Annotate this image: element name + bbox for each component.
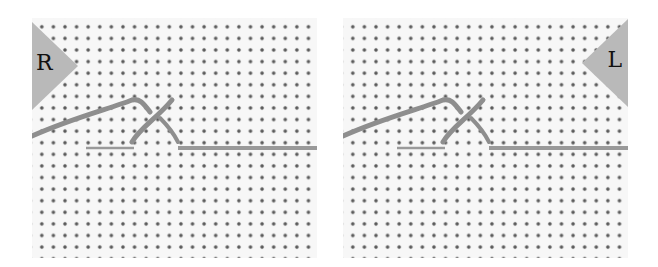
fabric-photo-right-handed: R bbox=[32, 18, 317, 258]
marker-label-l: L bbox=[607, 49, 622, 71]
marker-label-r: R bbox=[36, 52, 53, 74]
fabric-photo-left-handed: L bbox=[343, 18, 628, 258]
thread-and-needle-illustration bbox=[343, 18, 628, 258]
thread-and-needle-illustration bbox=[32, 18, 317, 258]
